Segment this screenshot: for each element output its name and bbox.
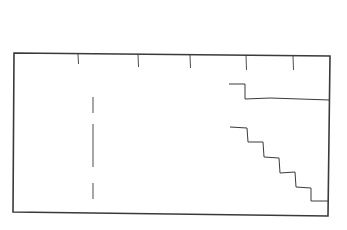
tick-mark-2 (138, 54, 139, 67)
floor-plan-sketch (0, 0, 347, 230)
top-wall-tick-marks (78, 54, 294, 70)
outer-wall-outline (13, 53, 330, 216)
tick-mark-4 (246, 55, 247, 70)
tick-mark-5 (293, 56, 294, 70)
upper-step-line (229, 84, 330, 100)
lower-staircase-line (230, 127, 328, 201)
tick-mark-3 (190, 55, 191, 68)
tick-mark-1 (78, 54, 79, 64)
